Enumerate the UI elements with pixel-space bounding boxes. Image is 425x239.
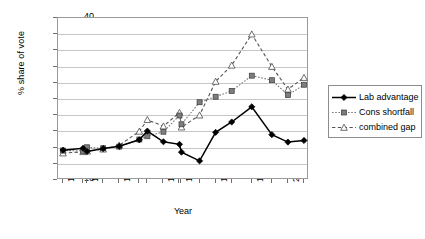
legend-item-label: Lab advantage — [357, 92, 419, 102]
data-point-marker — [197, 100, 202, 105]
data-point-marker — [228, 62, 235, 68]
data-point-marker — [301, 74, 308, 80]
data-point-marker — [248, 31, 255, 37]
legend-item-combined-gap[interactable]: combined gap — [331, 119, 418, 134]
data-point-marker — [176, 141, 182, 147]
legend-item-cons-shortfall[interactable]: Cons shortfall — [331, 104, 418, 119]
data-point-marker — [178, 149, 184, 155]
data-point-marker — [285, 139, 291, 145]
series-line-cons-shortfall — [63, 76, 304, 151]
legend-item-label: Cons shortfall — [357, 107, 414, 117]
data-point-marker — [229, 88, 234, 93]
data-point-marker — [136, 128, 143, 134]
series-line-combined-gap — [63, 34, 304, 153]
legend-key-icon — [331, 120, 357, 133]
x-axis-title: Year — [57, 206, 309, 216]
data-point-marker — [179, 122, 184, 127]
data-point-marker — [213, 94, 218, 99]
data-point-marker — [302, 82, 307, 87]
chart-figure: % share of vote Year 4035302520151050-5-… — [0, 0, 425, 239]
plot-area — [57, 17, 308, 179]
series-layer — [58, 18, 309, 180]
y-tick-mark — [53, 179, 57, 180]
data-point-marker — [285, 93, 290, 98]
legend-item-label: combined gap — [357, 122, 416, 132]
data-point-marker — [269, 63, 276, 69]
legend-key-icon — [331, 105, 357, 118]
data-point-marker — [269, 78, 274, 83]
y-axis-title: % share of vote — [16, 8, 26, 118]
legend-key-icon — [331, 90, 357, 103]
data-point-marker — [144, 116, 151, 122]
legend-item-lab-advantage[interactable]: Lab advantage — [331, 89, 418, 104]
data-point-marker — [249, 73, 254, 78]
legend: Lab advantageCons shortfallcombined gap — [328, 85, 422, 138]
data-point-marker — [161, 129, 166, 134]
data-point-marker — [177, 113, 182, 118]
data-point-marker — [285, 86, 292, 92]
data-point-marker — [196, 112, 203, 118]
data-point-marker — [196, 158, 202, 164]
data-point-marker — [301, 137, 307, 143]
